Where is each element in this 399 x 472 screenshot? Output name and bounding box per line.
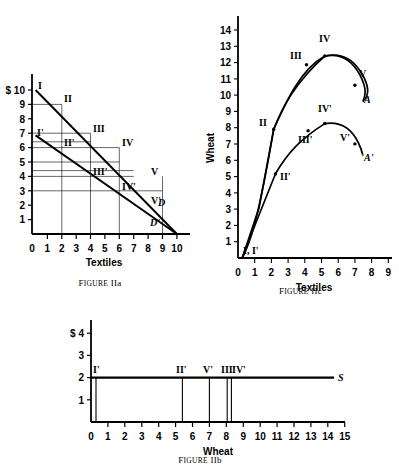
x-tick-label: 10: [171, 243, 183, 254]
x-tick-label: 5: [319, 267, 325, 278]
figure-IIc-caption: FIGURE IIc: [202, 286, 399, 296]
endpoint-label-A: A: [363, 94, 371, 105]
point-label-II: II: [64, 93, 72, 104]
x-tick-label: 4: [88, 243, 94, 254]
x-tick-label: 4: [302, 267, 308, 278]
point-label-II-prime: II': [176, 364, 187, 375]
y-tick-label: 8: [19, 114, 25, 125]
x-tick-label: 6: [117, 243, 123, 254]
figure-IIb-caption: FIGURE IIb: [100, 455, 300, 465]
point-label-III: III: [290, 50, 302, 61]
y-tick-label: 4: [19, 171, 25, 182]
x-tick-label: 1: [45, 243, 51, 254]
y-tick-label: 9: [225, 106, 231, 117]
y-tick-label: 2: [19, 200, 25, 211]
y-tick-label: 1: [225, 236, 231, 247]
data-point-markers: [272, 54, 357, 176]
x-tick-label: 9: [386, 267, 392, 278]
point-label-V-prime: V': [203, 364, 213, 375]
caption-label: IIa: [111, 278, 122, 288]
y-tick-label: 8: [225, 122, 231, 133]
y-tick-label: 6: [225, 155, 231, 166]
figure-IIb: 1 2 3 $ 4 0 1 2 3 4 5 6 7 8 9 10 11 12 1…: [55, 310, 399, 450]
y-tick-label: 14: [220, 25, 232, 36]
curve-label-D-prime: D': [149, 217, 160, 228]
point-label-V-prime: V': [340, 132, 350, 143]
y-tick-label-max: $ 4: [70, 328, 84, 339]
caption-igure: IGURE: [84, 279, 108, 288]
y-tick-label: 2: [78, 372, 84, 383]
point-label-I-prime: I': [37, 127, 44, 138]
point-label-II: II: [259, 117, 267, 128]
point-label-III: III: [93, 123, 105, 134]
y-tick-label: 10: [220, 90, 232, 101]
x-tick-label: 3: [73, 243, 79, 254]
x-tick-label: 7: [131, 243, 137, 254]
x-tick-label: 2: [269, 267, 275, 278]
x-tick-label: 1: [252, 267, 258, 278]
x-tick-label: 9: [241, 431, 247, 442]
y-tick-label: 11: [220, 74, 231, 85]
x-tick-label: 0: [235, 267, 241, 278]
marker-II-prime: [274, 172, 277, 175]
x-tick-label: 0: [29, 243, 35, 254]
origin-label: I, I': [243, 245, 259, 256]
curve-A-fill: [242, 55, 365, 258]
x-tick-label: 8: [145, 243, 151, 254]
marker-V: [353, 84, 356, 87]
point-label-III-prime: III': [298, 134, 313, 145]
marker-III-prime: [306, 129, 309, 132]
y-tick-label: 1: [19, 214, 25, 225]
x-tick-label: 10: [255, 431, 267, 442]
y-tick-label-max: $ 10: [6, 85, 26, 96]
x-tick-label: 4: [156, 431, 162, 442]
figure-IIc: 1 2 3 4 5 6 7 8 9 10 11 12 13 14 0 1 2 3…: [202, 8, 399, 278]
y-tick-label: 4: [225, 188, 231, 199]
point-label-I: I: [38, 80, 42, 91]
x-tick-label: 3: [139, 431, 145, 442]
point-label-I-prime: I': [93, 364, 100, 375]
curve-label-S: S: [338, 372, 344, 383]
y-axis-title: Wheat: [205, 132, 216, 163]
marker-IV-prime: [323, 122, 326, 125]
point-label-IV-prime: IV': [318, 103, 332, 114]
marker-III: [305, 63, 308, 66]
y-tick-label: 5: [19, 157, 25, 168]
y-tick-label: 13: [220, 41, 232, 52]
x-tick-label: 8: [224, 431, 230, 442]
y-tick-label: 5: [225, 171, 231, 182]
y-tick-label: 3: [19, 186, 25, 197]
x-tick-label: 7: [352, 267, 358, 278]
caption-igure: IGURE: [284, 287, 308, 296]
point-label-IV: IV: [319, 33, 331, 44]
y-tick-label: 9: [19, 99, 25, 110]
x-tick-label: 6: [335, 267, 341, 278]
point-label-II-prime: II': [280, 171, 291, 182]
marker-II: [272, 128, 275, 131]
point-label-IV: IV: [122, 137, 134, 148]
x-tick-label: 13: [305, 431, 317, 442]
x-tick-label: 3: [285, 267, 291, 278]
point-label-V: V: [151, 166, 159, 177]
figure-IIa: 1 2 3 4 5 6 7 8 9 $ 10 0 1 2 3 4 5 6 7 8…: [0, 60, 200, 275]
endpoint-label-A-prime: A': [363, 152, 374, 163]
x-tick-label: 12: [288, 431, 300, 442]
x-tick-label: 9: [160, 243, 166, 254]
y-tick-label: 3: [78, 350, 84, 361]
x-tick-label: 2: [122, 431, 128, 442]
x-tick-label: 5: [102, 243, 108, 254]
point-label-III-prime: III': [93, 166, 108, 177]
x-tick-label: 11: [272, 431, 283, 442]
y-tick-label: 1: [78, 395, 84, 406]
x-tick-label: 0: [88, 431, 94, 442]
point-label-II-prime: II': [64, 137, 75, 148]
marker-V-prime: [353, 142, 356, 145]
figure-IIb-plot: 1 2 3 $ 4 0 1 2 3 4 5 6 7 8 9 10 11 12 1…: [55, 310, 399, 450]
point-label-IV-prime: IV': [232, 364, 246, 375]
marker-IV: [323, 54, 326, 57]
x-tick-label: 14: [322, 431, 334, 442]
x-tick-label: 5: [173, 431, 179, 442]
curve-label-D: D: [157, 197, 165, 208]
y-tick-label: 6: [19, 142, 25, 153]
x-tick-label: 1: [105, 431, 111, 442]
